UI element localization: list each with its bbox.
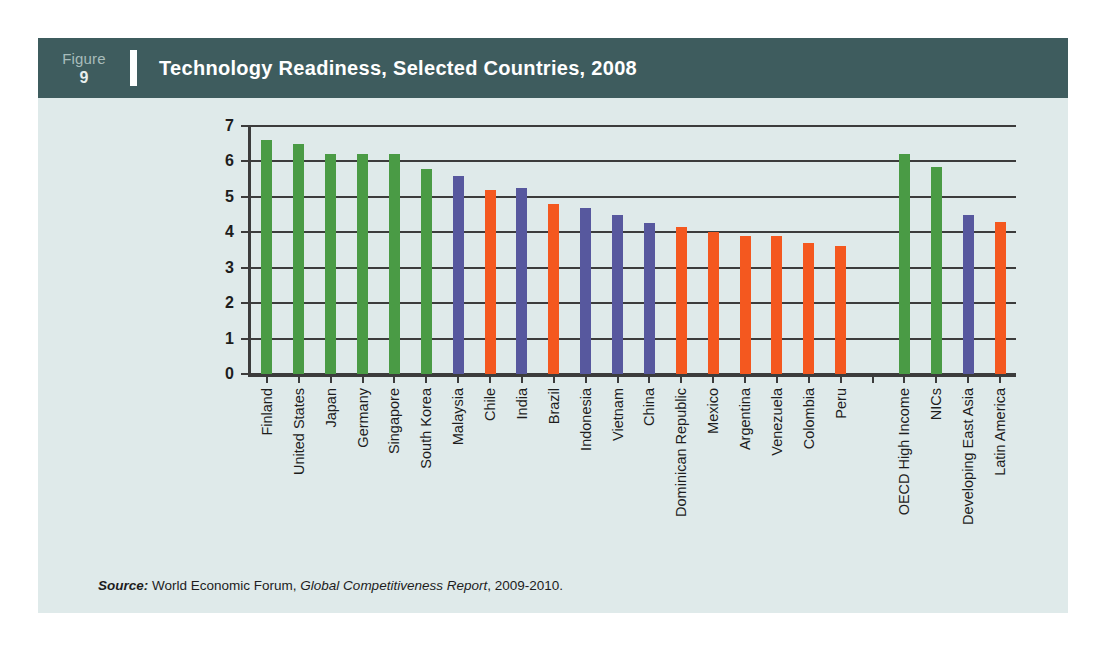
x-tick-mark [362, 374, 364, 383]
bar-colombia[interactable] [803, 243, 814, 374]
bar-germany[interactable] [357, 154, 368, 374]
x-tick-mark [457, 374, 459, 383]
x-tick-mark [744, 374, 746, 383]
x-tick-mark [330, 374, 332, 383]
y-tick-label-0: 0 [188, 365, 234, 383]
figure-number-block: Figure 9 [38, 38, 130, 98]
bar-singapore[interactable] [389, 154, 400, 374]
x-axis-label-brazil: Brazil [546, 388, 562, 424]
bar-argentina[interactable] [740, 236, 751, 374]
bar-slot-dominican-republic: Dominican Republic [665, 126, 697, 374]
x-axis-label-mexico: Mexico [705, 388, 721, 434]
x-axis-label-argentina: Argentina [737, 388, 753, 450]
x-axis-label-peru: Peru [833, 388, 849, 419]
bar-peru[interactable] [835, 246, 846, 374]
x-axis-label-nics: NICs [928, 388, 944, 420]
bar-slot-venezuela: Venezuela [761, 126, 793, 374]
bar-slot-latin-america: Latin America [984, 126, 1016, 374]
x-tick-mark [585, 374, 587, 383]
x-tick-mark [935, 374, 937, 383]
y-tick-mark-3 [241, 267, 251, 269]
x-axis-label-venezuela: Venezuela [769, 388, 785, 456]
bar-vietnam[interactable] [612, 215, 623, 374]
source-years: , 2009-2010. [487, 578, 563, 593]
x-tick-mark [776, 374, 778, 383]
bar-slot-malaysia: Malaysia [442, 126, 474, 374]
bar-finland[interactable] [261, 140, 272, 374]
bar-slot-indonesia: Indonesia [570, 126, 602, 374]
bar-slot-oecd-high-income: OECD High Income [889, 126, 921, 374]
bar-china[interactable] [644, 223, 655, 374]
y-tick-mark-6 [241, 160, 251, 162]
y-tick-mark-0 [241, 373, 251, 375]
source-label: Source: [98, 578, 148, 593]
bar-mexico[interactable] [708, 232, 719, 374]
bar-japan[interactable] [325, 154, 336, 374]
bar-latin-america[interactable] [995, 222, 1006, 374]
x-axis-label-chile: Chile [482, 388, 498, 421]
x-axis-label-malaysia: Malaysia [450, 388, 466, 445]
bar-nics[interactable] [931, 167, 942, 374]
x-tick-mark [808, 374, 810, 383]
x-axis-label-japan: Japan [323, 388, 339, 428]
figure-panel: FinlandUnited StatesJapanGermanySingapor… [38, 98, 1068, 613]
chart-plot-area: FinlandUnited StatesJapanGermanySingapor… [248, 126, 1016, 377]
x-tick-mark [648, 374, 650, 383]
chart-plot-wrapper: FinlandUnited StatesJapanGermanySingapor… [188, 118, 1018, 448]
bar-south-korea[interactable] [421, 169, 432, 374]
bar-india[interactable] [516, 188, 527, 374]
bar-venezuela[interactable] [771, 236, 782, 374]
bar-slot-chile: Chile [474, 126, 506, 374]
x-axis-label-singapore: Singapore [386, 388, 402, 454]
x-tick-mark [967, 374, 969, 383]
x-axis-label-germany: Germany [355, 388, 371, 448]
bar-slot-singapore: Singapore [379, 126, 411, 374]
x-tick-mark [872, 374, 874, 383]
bar-slot-india: India [506, 126, 538, 374]
bar-slot-south-korea: South Korea [410, 126, 442, 374]
bar-united-states[interactable] [293, 144, 304, 374]
figure-root: Figure 9 Technology Readiness, Selected … [38, 38, 1068, 613]
x-axis-label-latin-america: Latin America [992, 388, 1008, 476]
figure-label: Figure [62, 51, 106, 67]
y-tick-label-1: 1 [188, 330, 234, 348]
x-axis-label-finland: Finland [259, 388, 275, 436]
y-tick-label-2: 2 [188, 294, 234, 312]
figure-title: Technology Readiness, Selected Countries… [137, 38, 1068, 98]
bar-developing-east-asia[interactable] [963, 215, 974, 374]
x-axis-label-vietnam: Vietnam [610, 388, 626, 441]
bar-slot-colombia: Colombia [793, 126, 825, 374]
bar-slot-china: China [634, 126, 666, 374]
bar-brazil[interactable] [548, 204, 559, 374]
y-tick-mark-1 [241, 338, 251, 340]
y-tick-mark-2 [241, 302, 251, 304]
x-axis-label-india: India [514, 388, 530, 419]
x-axis-label-oecd-high-income: OECD High Income [896, 388, 912, 515]
bar-slot-brazil: Brazil [538, 126, 570, 374]
x-axis-label-indonesia: Indonesia [578, 388, 594, 451]
x-tick-mark [712, 374, 714, 383]
bar-slot-peru: Peru [825, 126, 857, 374]
x-tick-mark [553, 374, 555, 383]
y-tick-mark-7 [241, 125, 251, 127]
bar-slot-united-states: United States [283, 126, 315, 374]
bar-indonesia[interactable] [580, 208, 591, 375]
x-axis-label-dominican-republic: Dominican Republic [673, 388, 689, 517]
x-tick-mark [266, 374, 268, 383]
source-organization: World Economic Forum, [152, 578, 297, 593]
bar-dominican-republic[interactable] [676, 227, 687, 374]
y-tick-mark-4 [241, 231, 251, 233]
figure-number: 9 [80, 70, 89, 87]
bar-slot-nics: NICs [920, 126, 952, 374]
bar-chile[interactable] [485, 190, 496, 374]
chart-bars: FinlandUnited StatesJapanGermanySingapor… [251, 126, 1016, 374]
x-tick-mark [393, 374, 395, 383]
x-tick-mark [617, 374, 619, 383]
x-tick-mark [489, 374, 491, 383]
bar-oecd-high-income[interactable] [899, 154, 910, 374]
x-tick-mark [298, 374, 300, 383]
bar-slot-germany: Germany [347, 126, 379, 374]
x-tick-mark [903, 374, 905, 383]
bar-slot-developing-east-asia: Developing East Asia [952, 126, 984, 374]
bar-malaysia[interactable] [453, 176, 464, 374]
